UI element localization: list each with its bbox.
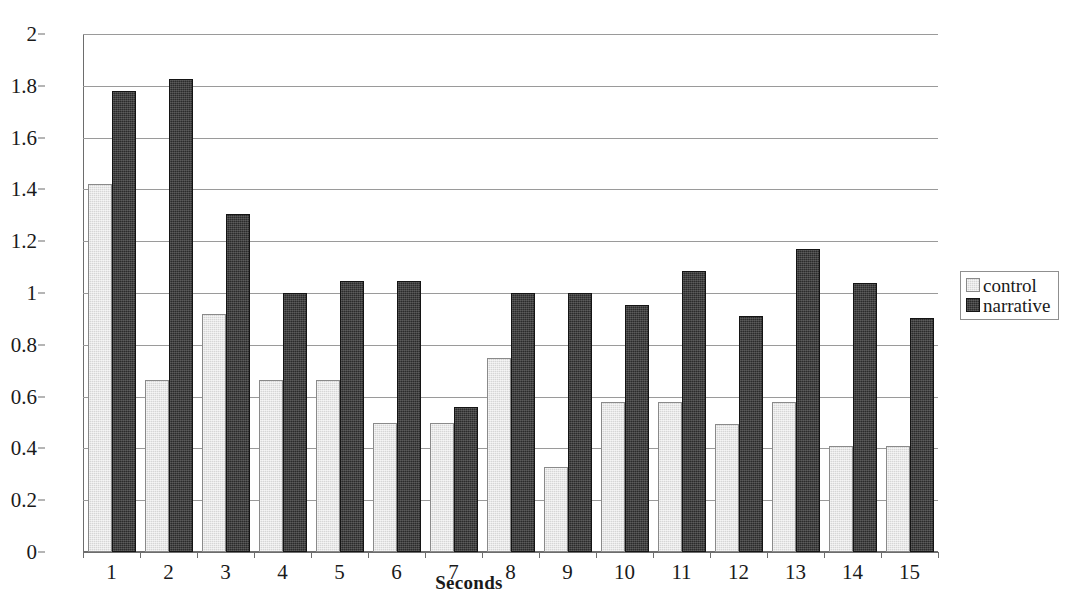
y-axis-tick-mark bbox=[38, 34, 45, 35]
y-axis-tick-mark bbox=[38, 137, 45, 138]
y-axis-tick-label: 0.2 bbox=[11, 490, 37, 511]
bar-narrative-10[interactable] bbox=[625, 305, 649, 552]
x-axis-tick-mark bbox=[938, 552, 939, 558]
x-axis-title: Seconds bbox=[0, 572, 938, 594]
bar-control-2[interactable] bbox=[145, 380, 169, 552]
y-axis-tick-mark bbox=[38, 396, 45, 397]
x-axis-tick-mark bbox=[596, 552, 597, 558]
bar-narrative-12[interactable] bbox=[739, 316, 763, 552]
bar-narrative-7[interactable] bbox=[454, 407, 478, 552]
x-axis-tick-mark bbox=[710, 552, 711, 558]
bar-narrative-6[interactable] bbox=[397, 281, 421, 552]
bar-control-6[interactable] bbox=[373, 423, 397, 553]
bar-control-15[interactable] bbox=[886, 446, 910, 552]
plot-area bbox=[83, 34, 938, 552]
x-axis-tick-mark bbox=[881, 552, 882, 558]
x-axis-tick-mark bbox=[539, 552, 540, 558]
bar-narrative-13[interactable] bbox=[796, 249, 820, 552]
bar-narrative-5[interactable] bbox=[340, 281, 364, 552]
bar-control-7[interactable] bbox=[430, 423, 454, 553]
y-axis-tick-label: 0 bbox=[27, 542, 38, 563]
bar-control-9[interactable] bbox=[544, 467, 568, 552]
legend-swatch-narrative-icon bbox=[966, 298, 980, 312]
y-axis: 00.20.40.60.811.21.41.61.82 bbox=[0, 0, 83, 614]
y-axis-tick-label: 1.6 bbox=[11, 127, 37, 148]
bar-narrative-11[interactable] bbox=[682, 271, 706, 552]
legend-label-narrative: narrative bbox=[983, 296, 1051, 315]
x-axis-tick-mark bbox=[482, 552, 483, 558]
x-axis-tick-mark bbox=[425, 552, 426, 558]
y-axis-tick-label: 1.4 bbox=[11, 179, 37, 200]
x-axis-tick-mark bbox=[254, 552, 255, 558]
bar-control-10[interactable] bbox=[601, 402, 625, 552]
y-axis-tick-label: 1.8 bbox=[11, 75, 37, 96]
x-axis-tick-mark bbox=[368, 552, 369, 558]
y-axis-tick-mark bbox=[38, 344, 45, 345]
y-axis-tick-label: 2 bbox=[27, 24, 38, 45]
y-axis-tick-label: 1 bbox=[27, 283, 38, 304]
y-axis-tick-mark bbox=[38, 85, 45, 86]
x-axis-tick-mark bbox=[767, 552, 768, 558]
y-axis-tick-label: 1.2 bbox=[11, 231, 37, 252]
bar-control-8[interactable] bbox=[487, 358, 511, 552]
bar-control-14[interactable] bbox=[829, 446, 853, 552]
x-axis-tick-mark bbox=[140, 552, 141, 558]
y-axis-tick-label: 0.4 bbox=[11, 438, 37, 459]
y-axis-tick-label: 0.8 bbox=[11, 334, 37, 355]
bar-control-1[interactable] bbox=[88, 184, 112, 552]
bar-narrative-8[interactable] bbox=[511, 293, 535, 552]
bar-control-13[interactable] bbox=[772, 402, 796, 552]
y-axis-tick-mark bbox=[38, 448, 45, 449]
x-axis-tick-mark bbox=[83, 552, 84, 558]
bar-control-12[interactable] bbox=[715, 424, 739, 552]
bar-narrative-9[interactable] bbox=[568, 293, 592, 552]
x-axis-tick-mark bbox=[824, 552, 825, 558]
y-axis-tick-mark bbox=[38, 241, 45, 242]
legend-item-narrative[interactable]: narrative bbox=[966, 295, 1051, 315]
bar-control-11[interactable] bbox=[658, 402, 682, 552]
bar-narrative-1[interactable] bbox=[112, 91, 136, 552]
bar-narrative-3[interactable] bbox=[226, 214, 250, 552]
bars-layer bbox=[83, 34, 938, 552]
legend-item-control[interactable]: control bbox=[966, 275, 1051, 295]
legend-label-control: control bbox=[983, 276, 1037, 295]
x-axis-tick-mark bbox=[653, 552, 654, 558]
clipped-caption-artifact bbox=[0, 0, 1081, 6]
y-axis-tick-mark bbox=[38, 189, 45, 190]
bar-control-3[interactable] bbox=[202, 314, 226, 552]
chart-page: 00.20.40.60.811.21.41.61.82 123456789101… bbox=[0, 0, 1081, 614]
x-axis-tick-mark bbox=[311, 552, 312, 558]
x-axis-tick-mark bbox=[197, 552, 198, 558]
y-axis-tick-mark bbox=[38, 500, 45, 501]
y-axis-tick-mark bbox=[38, 552, 45, 553]
y-axis-tick-mark bbox=[38, 293, 45, 294]
bar-control-5[interactable] bbox=[316, 380, 340, 552]
bar-narrative-2[interactable] bbox=[169, 79, 193, 552]
bar-narrative-15[interactable] bbox=[910, 318, 934, 552]
chart-legend: control narrative bbox=[960, 271, 1059, 320]
bar-control-4[interactable] bbox=[259, 380, 283, 552]
bar-narrative-4[interactable] bbox=[283, 293, 307, 552]
legend-swatch-control-icon bbox=[966, 278, 980, 292]
bar-narrative-14[interactable] bbox=[853, 283, 877, 552]
y-axis-tick-label: 0.6 bbox=[11, 386, 37, 407]
